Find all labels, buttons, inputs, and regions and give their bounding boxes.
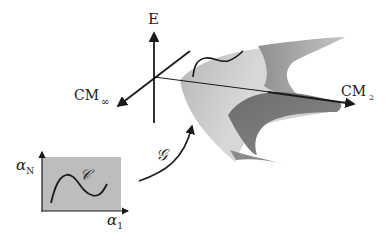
cm-2-label: CM2 (341, 83, 374, 102)
parameter-space: 𝒞 αN α1 (16, 152, 128, 231)
surface-mid-sheet (258, 37, 345, 97)
energy-surface (180, 37, 345, 164)
cm-infinity-label: CM∞ (74, 87, 109, 107)
mapping-g: 𝒢 (139, 126, 192, 181)
energy-axis-label: E (148, 10, 159, 28)
surface-dark-fold (228, 92, 341, 155)
alpha-1-label: α1 (107, 211, 123, 231)
mapping-label: 𝒢 (156, 145, 170, 164)
diagram-canvas: E CM∞ CM2 𝒞 αN α1 𝒢 (0, 0, 392, 242)
alpha-n-label: αN (16, 156, 34, 176)
